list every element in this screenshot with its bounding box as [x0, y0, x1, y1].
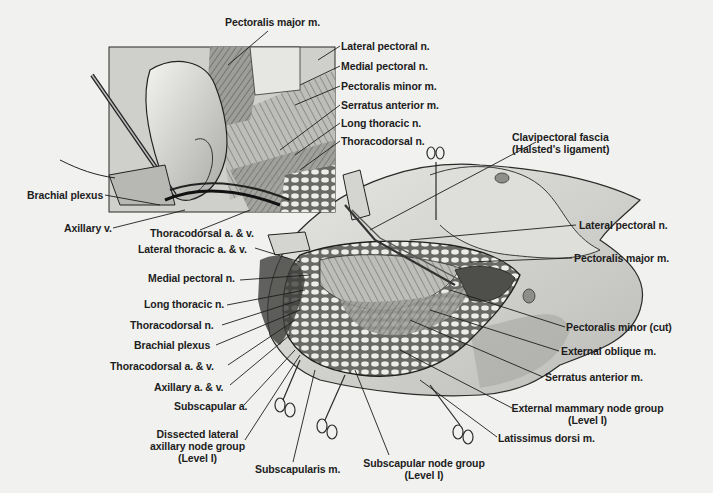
label-clavipectoral-fascia: Clavipectoral fascia (Halsted's ligament…	[512, 131, 609, 155]
label-external-mammary-node-group: External mammary node group (Level I)	[510, 402, 665, 426]
label-line: Clavipectoral fascia	[512, 131, 609, 143]
label-brachial-plexus-main: Brachial plexus	[134, 339, 210, 351]
label-thoracodorsal-av-inset: Thoracodorsal a. & v.	[150, 227, 254, 239]
label-pectoralis-major-main: Pectoralis major m.	[574, 252, 669, 264]
inset-panel	[60, 47, 335, 212]
label-lateral-pectoral-main: Lateral pectoral n.	[579, 219, 668, 231]
label-serratus-anterior-inset: Serratus anterior m.	[341, 99, 439, 111]
label-long-thoracic-inset: Long thoracic n.	[341, 117, 421, 129]
label-thoracodorsal-av-main: Thoracodorsal a. & v.	[110, 360, 214, 372]
label-serratus-anterior-main: Serratus anterior m.	[545, 371, 643, 383]
label-subscapular-a: Subscapular a.	[174, 400, 247, 412]
label-thoracodorsal-n-inset: Thoracodorsal n.	[341, 135, 425, 147]
label-dissected-lateral-axillary: Dissected lateral axillary node group (L…	[150, 428, 245, 464]
anatomy-figure: Pectoralis major m. Lateral pectoral n. …	[0, 0, 713, 493]
label-medial-pectoral-main: Medial pectoral n.	[148, 272, 235, 284]
label-thoracodorsal-n-main: Thoracodorsal n.	[130, 319, 214, 331]
label-line: axillary node group	[150, 440, 245, 452]
label-subscapularis: Subscapularis m.	[255, 463, 340, 475]
label-subscapular-node-group: Subscapular node group (Level I)	[362, 457, 486, 481]
label-external-oblique: External oblique m.	[561, 345, 656, 357]
label-line: (Halsted's ligament)	[512, 143, 609, 155]
label-line: (Level I)	[150, 452, 245, 464]
label-pectoralis-minor-inset: Pectoralis minor m.	[341, 80, 437, 92]
label-line: Subscapular node group	[362, 457, 486, 469]
label-line: (Level I)	[510, 414, 665, 426]
label-latissimus-dorsi: Latissimus dorsi m.	[498, 432, 595, 444]
label-pectoralis-major-inset: Pectoralis major m.	[225, 16, 320, 28]
label-line: External mammary node group	[510, 402, 665, 414]
label-line: Dissected lateral	[150, 428, 245, 440]
label-brachial-plexus-inset: Brachial plexus	[27, 189, 103, 201]
label-lateral-pectoral-inset: Lateral pectoral n.	[341, 40, 430, 52]
label-pectoralis-minor-cut: Pectoralis minor (cut)	[566, 321, 672, 333]
label-axillary-v-inset: Axillary v.	[64, 222, 112, 234]
label-lateral-thoracic-av: Lateral thoracic a. & v.	[138, 243, 247, 255]
label-axillary-av: Axillary a. & v.	[154, 381, 223, 393]
label-medial-pectoral-inset: Medial pectoral n.	[341, 60, 428, 72]
label-line: (Level I)	[362, 469, 486, 481]
label-long-thoracic-main: Long thoracic n.	[144, 298, 224, 310]
